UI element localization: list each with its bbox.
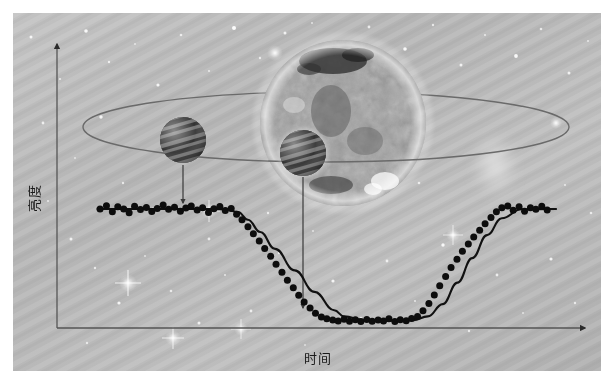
- starfield-scene: 亮度 时间: [13, 13, 601, 371]
- data-point: [131, 203, 138, 210]
- data-point: [109, 208, 116, 215]
- data-point: [369, 318, 376, 325]
- data-point: [278, 269, 285, 276]
- data-point: [126, 209, 133, 216]
- data-point: [267, 253, 274, 260]
- data-point: [307, 305, 314, 312]
- data-points: [97, 202, 551, 326]
- data-point: [459, 248, 466, 255]
- data-point: [482, 220, 489, 227]
- y-axis-label: 亮度: [24, 168, 43, 228]
- axes: [57, 44, 585, 328]
- data-point: [425, 300, 432, 307]
- data-point: [448, 264, 455, 271]
- data-point: [103, 202, 110, 209]
- data-point: [312, 310, 319, 317]
- data-point: [188, 202, 195, 209]
- data-point: [301, 298, 308, 305]
- data-point: [476, 227, 483, 234]
- data-point: [273, 261, 280, 268]
- data-point: [442, 273, 449, 280]
- data-point: [290, 284, 297, 291]
- data-point: [453, 256, 460, 263]
- data-point: [419, 307, 426, 314]
- data-point: [532, 206, 539, 213]
- data-point: [510, 207, 517, 214]
- figure-root: 亮度 时间: [0, 0, 614, 388]
- data-point: [397, 316, 404, 323]
- data-point: [154, 205, 161, 212]
- data-point: [431, 291, 438, 298]
- data-point: [199, 204, 206, 211]
- data-point: [261, 245, 268, 252]
- data-point: [284, 277, 291, 284]
- data-point: [335, 318, 342, 325]
- data-point: [487, 214, 494, 221]
- data-point: [250, 230, 257, 237]
- data-point: [465, 240, 472, 247]
- data-point: [295, 292, 302, 299]
- data-point: [233, 211, 240, 218]
- data-point: [470, 233, 477, 240]
- data-point: [228, 205, 235, 212]
- data-point: [171, 204, 178, 211]
- data-point: [239, 216, 246, 223]
- data-point: [256, 237, 263, 244]
- data-point: [544, 206, 551, 213]
- data-point: [436, 282, 443, 289]
- data-point: [244, 223, 251, 230]
- data-point: [346, 318, 353, 325]
- data-point: [521, 208, 528, 215]
- data-point: [323, 315, 330, 322]
- data-point: [498, 204, 505, 211]
- data-point: [97, 206, 104, 213]
- light-curve-plot: [13, 13, 601, 371]
- x-axis-label: 时间: [283, 348, 353, 367]
- data-point: [414, 313, 421, 320]
